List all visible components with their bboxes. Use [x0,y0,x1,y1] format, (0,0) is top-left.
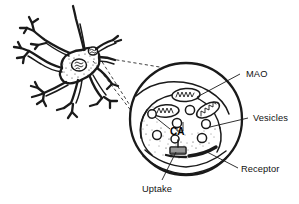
vesicle [153,131,162,140]
vesicle [148,110,156,118]
label-vesicles: Vesicles [253,113,288,123]
label-uptake: Uptake [142,184,172,194]
vesicle [202,120,211,129]
label-receptor: Receptor [241,164,280,174]
label-ca: CA [170,126,184,137]
nucleus [72,59,87,71]
figure-root: MAO Vesicles Receptor Uptake CA [0,0,299,204]
neuron-cell-body-group [14,6,121,118]
vesicle [197,133,206,142]
label-mao: MAO [246,69,267,79]
vesicle [185,105,194,114]
neuron-diagram-svg: MAO Vesicles Receptor Uptake CA [0,0,299,204]
magnified-terminal-circle [130,63,248,180]
